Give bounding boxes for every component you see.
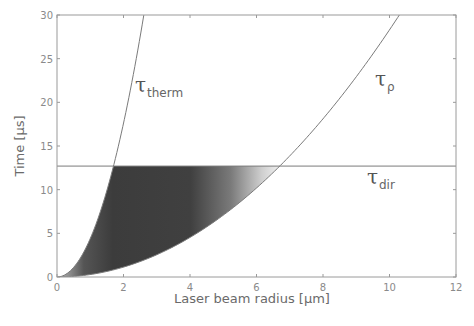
x-tick-label: 12 [450,282,463,293]
y-tick-label: 15 [40,141,53,152]
y-tick-label: 20 [40,97,53,108]
label-tau-rho: τ ρ [375,67,395,94]
label-tau-dir: τ dir [367,165,395,192]
chart: 024681012051015202530 Laser beam radius … [0,0,474,326]
x-axis-label: Laser beam radius [µm] [174,291,330,306]
y-tick-label: 25 [40,54,53,65]
x-tick-label: 2 [120,282,126,293]
x-tick-label: 0 [54,282,60,293]
tau-therm-subscript: therm [147,86,183,100]
tau-dir-symbol: τ [367,165,378,189]
tau-dir-subscript: dir [379,178,395,192]
y-tick-label: 30 [40,10,53,21]
tau-rho-subscript: ρ [387,80,395,94]
y-tick-label: 0 [47,272,53,283]
y-tick-label: 10 [40,185,53,196]
tau-rho-symbol: τ [375,67,386,91]
tau-therm-symbol: τ [135,73,146,97]
y-axis-label: Time [µs] [12,115,27,177]
shaded-region [57,166,280,277]
x-tick-label: 10 [383,282,396,293]
y-tick-label: 5 [47,228,53,239]
feasible-region [57,166,280,277]
label-tau-therm: τ therm [135,73,183,100]
